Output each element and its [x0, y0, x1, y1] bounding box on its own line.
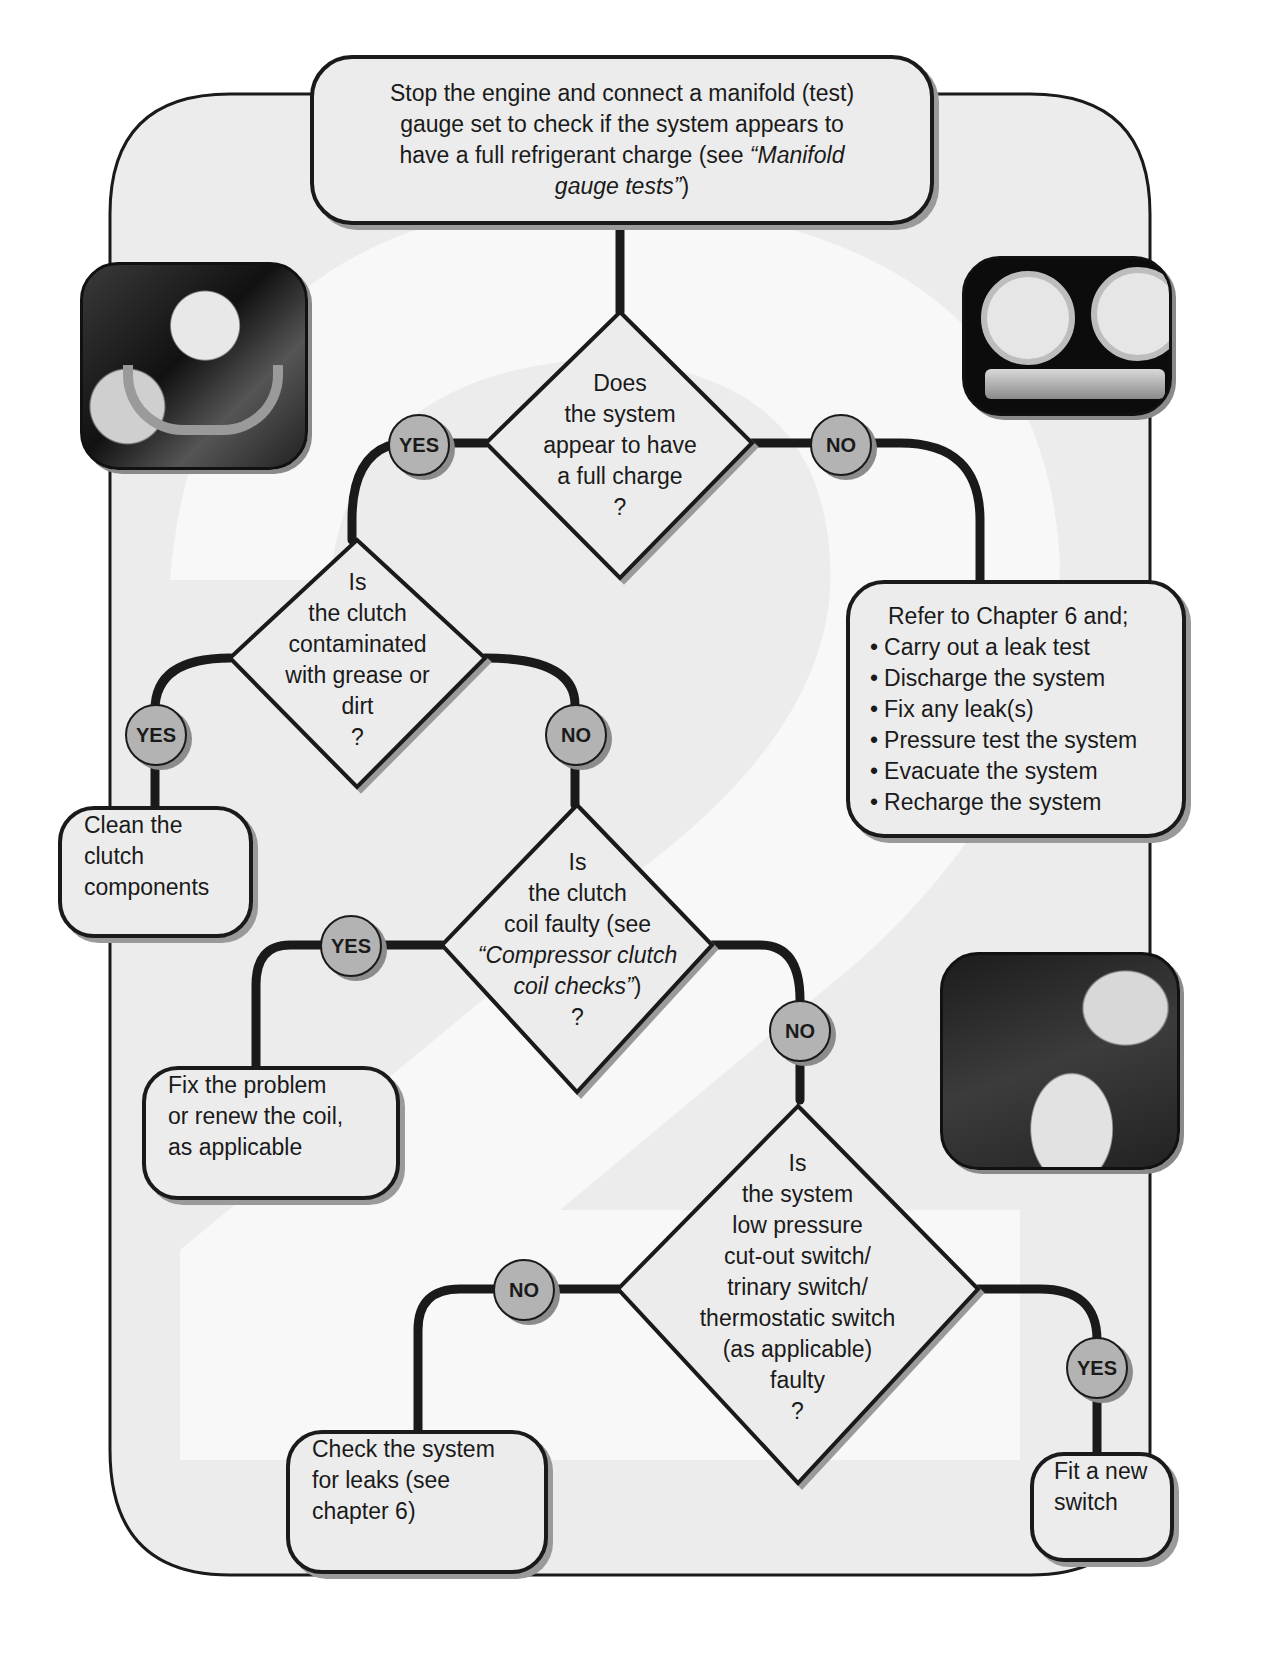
badge-q4-no: NO	[493, 1259, 555, 1321]
q1-line: ?	[614, 492, 627, 523]
check-leaks-line: Check the system	[312, 1434, 495, 1465]
start-line-1: Stop the engine and connect a manifold (…	[390, 78, 854, 109]
flowchart-diagram: Stop the engine and connect a manifold (…	[0, 0, 1280, 1665]
hose-icon	[123, 365, 283, 435]
list-item: Pressure test the system	[870, 725, 1137, 756]
start-line-2: gauge set to check if the system appears…	[400, 109, 844, 140]
badge-q1-no: NO	[810, 414, 872, 476]
fix-coil-line: as applicable	[168, 1132, 302, 1163]
q2-line: the clutch	[308, 598, 406, 629]
q3-line: ?	[571, 1002, 584, 1033]
badge-q3-no: NO	[769, 1000, 831, 1062]
q3-line: Is	[569, 847, 587, 878]
q3-line: coil faulty (see	[504, 909, 651, 940]
q1-line: the system	[564, 399, 675, 430]
q4-line: trinary switch/	[727, 1272, 868, 1303]
action-leak-procedure: Refer to Chapter 6 and; Carry out a leak…	[846, 580, 1186, 838]
q2-line: dirt	[342, 691, 374, 722]
q3-line: coil checks”)	[514, 971, 642, 1002]
q2-line: with grease or	[285, 660, 429, 691]
list-item: Fix any leak(s)	[870, 694, 1137, 725]
q4-line: cut-out switch/	[724, 1241, 871, 1272]
start-box: Stop the engine and connect a manifold (…	[310, 55, 934, 225]
list-item: Discharge the system	[870, 663, 1137, 694]
action-clean-clutch: Clean the clutch components	[58, 806, 253, 938]
q1-line: Does	[593, 368, 647, 399]
clean-clutch-line: components	[84, 872, 209, 903]
action-check-leaks: Check the system for leaks (see chapter …	[286, 1430, 548, 1574]
gauge-icon-high	[1091, 267, 1172, 361]
check-leaks-line: chapter 6)	[312, 1496, 416, 1527]
q3-line: “Compressor clutch	[478, 940, 677, 971]
badge-q2-no: NO	[545, 704, 607, 766]
photo-hose-coupling	[80, 262, 308, 470]
photo-technician	[940, 952, 1180, 1170]
decision-coil-faulty-text: Is the clutch coil faulty (see “Compress…	[445, 840, 710, 1040]
fix-coil-line: or renew the coil,	[168, 1101, 343, 1132]
manifold-body-icon	[985, 369, 1165, 399]
action-fix-coil: Fix the problem or renew the coil, as ap…	[142, 1066, 400, 1200]
leak-procedure-list: Carry out a leak test Discharge the syst…	[870, 632, 1137, 818]
q4-line: low pressure	[732, 1210, 862, 1241]
q2-line: Is	[349, 567, 367, 598]
badge-q3-yes: YES	[320, 915, 382, 977]
new-switch-line: Fit a new	[1054, 1456, 1147, 1487]
gauge-icon-low	[981, 271, 1075, 365]
clean-clutch-line: clutch	[84, 841, 144, 872]
badge-q2-yes: YES	[125, 704, 187, 766]
leak-procedure-heading: Refer to Chapter 6 and;	[870, 601, 1128, 632]
list-item: Recharge the system	[870, 787, 1137, 818]
action-new-switch: Fit a new switch	[1030, 1452, 1174, 1562]
q4-line: Is	[789, 1148, 807, 1179]
badge-q4-yes: YES	[1066, 1337, 1128, 1399]
badge-q1-yes: YES	[388, 414, 450, 476]
decision-switch-faulty-text: Is the system low pressure cut-out switc…	[660, 1140, 935, 1435]
q4-line: (as applicable)	[723, 1334, 873, 1365]
list-item: Carry out a leak test	[870, 632, 1137, 663]
decision-contaminated-text: Is the clutch contaminated with grease o…	[240, 565, 475, 755]
q4-line: the system	[742, 1179, 853, 1210]
start-line-3: have a full refrigerant charge (see “Man…	[400, 140, 845, 171]
q2-line: contaminated	[288, 629, 426, 660]
q4-line: ?	[791, 1396, 804, 1427]
q4-line: thermostatic switch	[700, 1303, 896, 1334]
start-line-4: gauge tests”)	[555, 171, 689, 202]
decision-full-charge-text: Does the system appear to have a full ch…	[500, 360, 740, 530]
photo-manifold-gauges	[962, 256, 1172, 416]
new-switch-line: switch	[1054, 1487, 1118, 1518]
q4-line: faulty	[770, 1365, 825, 1396]
list-item: Evacuate the system	[870, 756, 1137, 787]
fix-coil-line: Fix the problem	[168, 1070, 327, 1101]
q3-line: the clutch	[528, 878, 626, 909]
q1-line: appear to have	[543, 430, 696, 461]
q2-line: ?	[351, 722, 364, 753]
q1-line: a full charge	[557, 461, 682, 492]
clean-clutch-line: Clean the	[84, 810, 182, 841]
check-leaks-line: for leaks (see	[312, 1465, 450, 1496]
